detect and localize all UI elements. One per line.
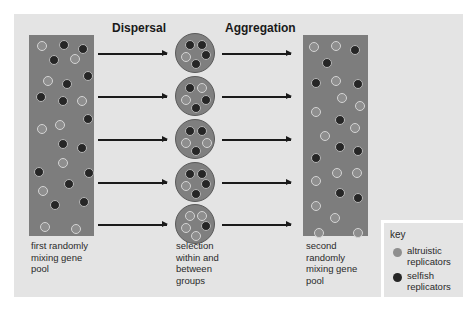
selfish-replicator-icon: [185, 83, 195, 93]
legend-key: key altruistic replicators selfish repli…: [381, 220, 463, 297]
altruistic-replicator-icon: [185, 211, 195, 221]
altruistic-replicator-icon: [202, 138, 212, 148]
dispersal-arrow-icon: [98, 182, 167, 184]
selfish-replicator-icon: [36, 92, 46, 102]
key-title: key: [390, 229, 406, 240]
groups-caption: selection within and between groups: [176, 240, 219, 286]
first-pool-caption: first randomly mixing gene pool: [31, 240, 88, 275]
selfish-replicator-icon: [311, 78, 321, 88]
altruistic-label: altruistic replicators: [407, 245, 451, 267]
group-circle: [175, 204, 215, 244]
group-circle: [175, 76, 215, 116]
selfish-replicator-icon: [50, 200, 60, 210]
selfish-label: selfish replicators: [407, 270, 451, 292]
altruistic-replicator-icon: [181, 223, 191, 233]
selfish-replicator-icon: [83, 114, 93, 124]
selfish-replicator-icon: [335, 188, 345, 198]
altruistic-replicator-icon: [181, 95, 191, 105]
selfish-replicator-icon: [185, 169, 195, 179]
selfish-replicator-icon: [350, 45, 360, 55]
altruistic-replicator-icon: [181, 138, 191, 148]
selfish-replicator-icon: [353, 79, 363, 89]
selfish-replicator-icon: [185, 40, 195, 50]
selfish-replicator-icon: [58, 139, 68, 149]
selfish-replicator-icon: [59, 40, 69, 50]
altruistic-replicator-icon: [71, 224, 81, 234]
second-gene-pool: [303, 35, 368, 236]
altruistic-replicator-icon: [55, 120, 65, 130]
group-circle: [175, 162, 215, 202]
selfish-replicator-icon: [64, 179, 74, 189]
selfish-replicator-icon: [197, 40, 207, 50]
altruistic-replicator-icon: [197, 83, 207, 93]
altruistic-replicator-icon: [350, 123, 360, 133]
altruistic-replicator-icon: [309, 42, 319, 52]
altruistic-replicator-icon: [311, 107, 321, 117]
selfish-replicator-icon: [77, 143, 87, 153]
dispersal-arrow-icon: [98, 53, 167, 55]
altruistic-replicator-icon: [58, 158, 68, 168]
altruistic-replicator-icon: [37, 124, 47, 134]
altruistic-replicator-icon: [37, 41, 47, 51]
selfish-replicator-icon: [185, 126, 195, 136]
selfish-replicator-icon: [335, 115, 345, 125]
selfish-replicator-icon: [79, 197, 89, 207]
selfish-replicator-icon: [83, 71, 93, 81]
altruistic-replicator-icon: [181, 181, 191, 191]
selfish-replicator-icon: [78, 44, 88, 54]
selfish-replicator-icon: [191, 59, 201, 69]
dispersal-title: Dispersal: [112, 21, 166, 35]
selfish-replicator-icon: [201, 50, 211, 60]
selfish-swatch-icon: [393, 273, 402, 282]
aggregation-arrow-icon: [222, 182, 291, 184]
selfish-replicator-icon: [191, 146, 201, 156]
selfish-replicator-icon: [84, 168, 94, 178]
dispersal-arrow-icon: [98, 96, 167, 98]
altruistic-replicator-icon: [40, 222, 50, 232]
selfish-replicator-icon: [58, 96, 68, 106]
selfish-replicator-icon: [201, 179, 211, 189]
altruistic-replicator-icon: [352, 168, 362, 178]
altruistic-replicator-icon: [43, 76, 53, 86]
selfish-replicator-icon: [191, 103, 201, 113]
aggregation-arrow-icon: [222, 224, 291, 226]
selfish-replicator-icon: [197, 169, 207, 179]
altruistic-replicator-icon: [77, 96, 87, 106]
selfish-replicator-icon: [201, 221, 211, 231]
altruistic-replicator-icon: [181, 52, 191, 62]
altruistic-replicator-icon: [38, 186, 48, 196]
altruistic-replicator-icon: [337, 93, 347, 103]
group-circle: [175, 33, 215, 73]
selfish-replicator-icon: [322, 58, 332, 68]
altruistic-replicator-icon: [355, 101, 365, 111]
altruistic-replicator-icon: [331, 41, 341, 51]
aggregation-arrow-icon: [222, 53, 291, 55]
aggregation-title: Aggregation: [225, 21, 296, 35]
altruistic-replicator-icon: [331, 76, 341, 86]
selfish-replicator-icon: [311, 153, 321, 163]
selfish-replicator-icon: [335, 142, 345, 152]
second-pool-caption: second randomly mixing gene pool: [306, 240, 357, 286]
first-gene-pool: [29, 35, 94, 236]
altruistic-replicator-icon: [311, 201, 321, 211]
selfish-replicator-icon: [62, 79, 72, 89]
selfish-replicator-icon: [49, 55, 59, 65]
aggregation-arrow-icon: [222, 139, 291, 141]
selfish-replicator-icon: [34, 167, 44, 177]
selfish-replicator-icon: [353, 146, 363, 156]
group-circle: [175, 119, 215, 159]
selfish-replicator-icon: [197, 126, 207, 136]
dispersal-arrow-icon: [98, 139, 167, 141]
selfish-replicator-icon: [201, 95, 211, 105]
selfish-replicator-icon: [353, 193, 363, 203]
altruistic-replicator-icon: [197, 211, 207, 221]
altruistic-replicator-icon: [332, 168, 342, 178]
altruistic-replicator-icon: [330, 213, 340, 223]
aggregation-arrow-icon: [222, 96, 291, 98]
altruistic-replicator-icon: [353, 228, 363, 238]
altruistic-replicator-icon: [320, 131, 330, 141]
altruistic-replicator-icon: [311, 176, 321, 186]
altruistic-replicator-icon: [70, 54, 80, 64]
selfish-replicator-icon: [191, 189, 201, 199]
dispersal-arrow-icon: [98, 224, 167, 226]
